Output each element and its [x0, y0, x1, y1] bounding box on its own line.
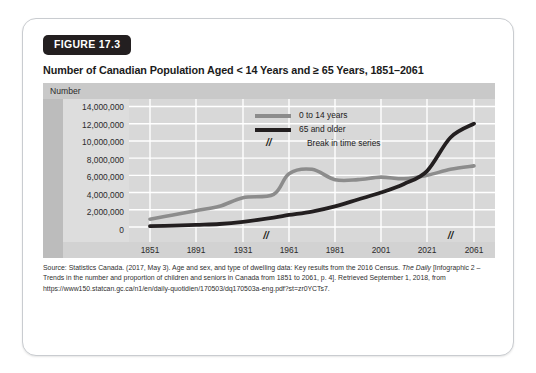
y-tick-label: 6,000,000 — [87, 173, 124, 182]
y-tick-label: 12,000,000 — [82, 121, 124, 130]
break-in-time-series-marker: // — [447, 230, 455, 241]
x-tick-label: 1851 — [141, 245, 160, 255]
y-tick-label: 2,000,000 — [87, 208, 124, 217]
figure-badge: FIGURE 17.3 — [43, 35, 131, 55]
x-tick-label: 2001 — [372, 245, 391, 255]
x-tick-label: 2021 — [418, 245, 437, 255]
source-line-4: .pdf?st=zr0YCTs7. — [273, 285, 330, 292]
y-tick-label: 4,000,000 — [87, 191, 124, 200]
figure-page: FIGURE 17.3 Number of Canadian Populatio… — [0, 0, 536, 373]
x-tick-label: 1931 — [234, 245, 253, 255]
legend-label: Break in time series — [307, 138, 381, 148]
chart-inner: 14,000,000 12,000,000 10,000,000 8,000,0… — [63, 99, 495, 258]
source-italic-title: The Daily — [402, 264, 431, 271]
break-in-time-series-marker: // — [262, 230, 270, 241]
y-axis-header: Number — [50, 86, 81, 96]
chart-frame: Number 14,000,000 12,000,000 10,000,000 … — [43, 83, 495, 258]
x-tick-label: 1961 — [280, 245, 299, 255]
source-line-1: Source: Statistics Canada. (2017, May 3)… — [43, 264, 400, 271]
y-tick-label: 8,000,000 — [87, 156, 124, 165]
line-chart-svg: //// — [129, 99, 495, 242]
legend-label: 65 and older — [299, 124, 346, 134]
legend-line-black-icon — [255, 128, 291, 133]
x-tick-label: 2061 — [465, 245, 484, 255]
figure-title: Number of Canadian Population Aged < 14 … — [43, 63, 493, 77]
plot-area: //// 0 to 14 years 65 and older // Br — [129, 99, 495, 242]
y-axis-tick-labels: 14,000,000 12,000,000 10,000,000 8,000,0… — [63, 99, 129, 242]
y-tick-label: 14,000,000 — [82, 103, 124, 112]
chart-left-band — [43, 99, 63, 258]
y-tick-label: 0 — [119, 226, 124, 235]
legend-line-gray-icon — [255, 114, 291, 118]
y-tick-label: 10,000,000 — [82, 138, 124, 147]
x-axis-tick-labels: 1851 1891 1931 1961 1981 2001 2021 2061 — [63, 242, 495, 258]
figure-card: FIGURE 17.3 Number of Canadian Populatio… — [22, 18, 514, 356]
x-tick-label: 1981 — [326, 245, 345, 255]
x-tick-label: 1891 — [187, 245, 206, 255]
source-note: Source: Statistics Canada. (2017, May 3)… — [43, 263, 495, 294]
legend-label: 0 to 14 years — [299, 110, 347, 120]
double-slash-icon: // — [266, 137, 272, 148]
